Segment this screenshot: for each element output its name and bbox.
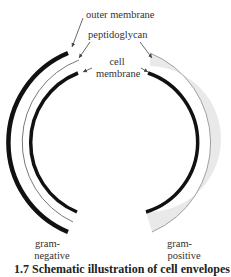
arrow-peptidoglycan-left bbox=[79, 42, 90, 58]
arrow-cell-membrane-left bbox=[83, 68, 92, 72]
gram-negative-outer-membrane bbox=[8, 53, 68, 232]
gram-positive-envelope bbox=[146, 53, 221, 232]
gram-negative-envelope bbox=[8, 53, 79, 232]
label-gram-positive: gram- positive bbox=[162, 238, 206, 262]
label-gram-positive-line1: gram- bbox=[162, 238, 206, 250]
label-cell-membrane-line1: cell bbox=[96, 56, 138, 68]
label-gram-negative-line2: negative bbox=[30, 250, 74, 262]
arrow-cell-membrane-right bbox=[141, 68, 148, 72]
label-peptidoglycan: peptidoglycan bbox=[88, 29, 147, 41]
label-gram-positive-line2: positive bbox=[162, 250, 206, 262]
label-gram-negative: gram- negative bbox=[30, 238, 74, 262]
label-cell-membrane: cell membrane bbox=[96, 56, 138, 80]
arrow-peptidoglycan-right bbox=[140, 42, 152, 58]
label-outer-membrane: outer membrane bbox=[86, 9, 155, 21]
label-gram-negative-line1: gram- bbox=[30, 238, 74, 250]
gram-positive-cell-membrane bbox=[146, 73, 198, 212]
figure-caption: 1.7 Schematic illustration of cell envel… bbox=[14, 262, 230, 277]
gram-positive-peptidoglycan bbox=[146, 53, 221, 232]
label-cell-membrane-line2: membrane bbox=[96, 68, 138, 80]
gram-negative-cell-membrane bbox=[31, 73, 78, 212]
arrow-outer-membrane bbox=[72, 18, 83, 47]
